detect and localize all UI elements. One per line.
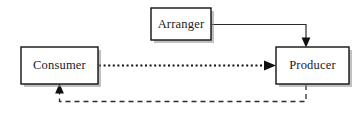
node-arranger[interactable]: Arranger [151,8,214,43]
edge-arranger-to-producer-line [212,25,307,41]
edge-consumer-to-producer-arrowhead [264,60,276,70]
diagram-svg: Arranger Consumer Producer [0,0,362,115]
edge-arranger-to-producer-arrowhead [302,38,311,48]
edge-arranger-to-producer [212,25,311,48]
node-consumer[interactable]: Consumer [21,47,101,87]
node-producer[interactable]: Producer [276,47,352,87]
edge-producer-to-consumer-line [60,85,307,102]
node-producer-label: Producer [289,58,336,72]
diagram-canvas: Arranger Consumer Producer [0,0,362,115]
edge-consumer-to-producer [99,60,276,70]
node-arranger-label: Arranger [158,17,205,31]
node-consumer-label: Consumer [33,58,87,72]
